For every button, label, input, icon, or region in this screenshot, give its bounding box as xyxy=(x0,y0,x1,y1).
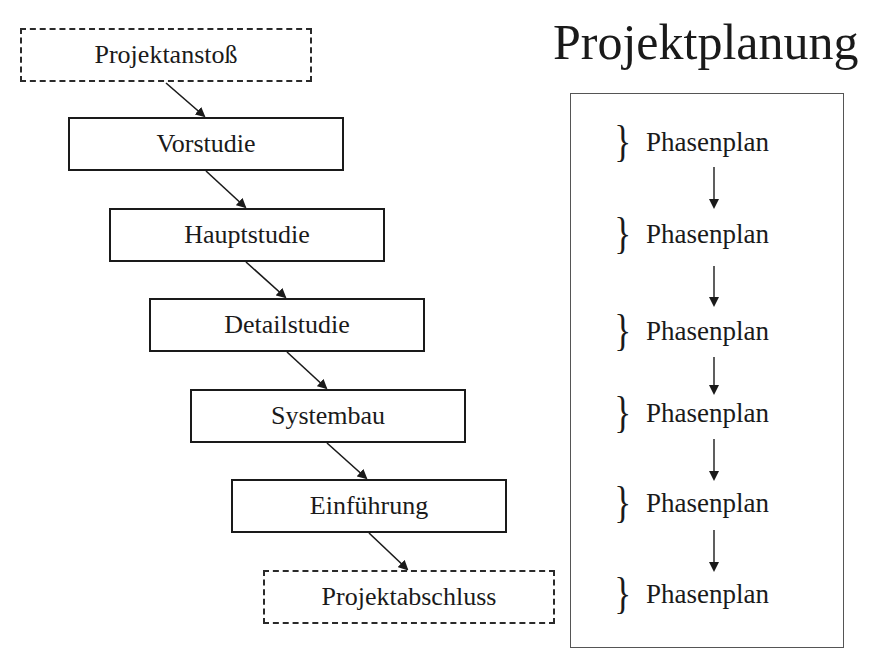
arrow-icon xyxy=(287,352,326,388)
brace-icon: } xyxy=(614,212,632,256)
phase-plan-label: Phasenplan xyxy=(646,488,769,519)
phase-plan-item: } Phasenplan xyxy=(612,212,769,256)
brace-icon: } xyxy=(614,309,632,353)
planning-panel xyxy=(570,93,844,648)
arrow-icon xyxy=(166,83,204,116)
phase-plan-label: Phasenplan xyxy=(646,127,769,158)
arrow-icon xyxy=(206,171,245,207)
phase-plan-label: Phasenplan xyxy=(646,579,769,610)
phase-plan-label: Phasenplan xyxy=(646,316,769,347)
phase-plan-label: Phasenplan xyxy=(646,219,769,250)
phase-plan-item: } Phasenplan xyxy=(612,391,769,435)
phase-plan-item: } Phasenplan xyxy=(612,120,769,164)
phase-plan-item: } Phasenplan xyxy=(612,572,769,616)
flow-arrows xyxy=(166,83,407,569)
phase-plan-item: } Phasenplan xyxy=(612,481,769,525)
arrow-icon xyxy=(327,443,366,478)
arrow-icon xyxy=(369,533,407,569)
phase-plan-label: Phasenplan xyxy=(646,398,769,429)
phase-plan-item: } Phasenplan xyxy=(612,309,769,353)
arrow-icon xyxy=(246,262,285,297)
brace-icon: } xyxy=(614,391,632,435)
brace-icon: } xyxy=(614,120,632,164)
brace-icon: } xyxy=(614,481,632,525)
brace-icon: } xyxy=(614,572,632,616)
